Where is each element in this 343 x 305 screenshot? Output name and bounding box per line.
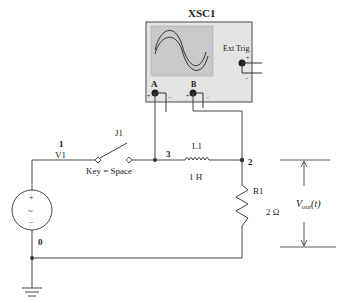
- inductor-value: 1 H: [189, 172, 203, 182]
- resistor-r1[interactable]: R1 2 Ω: [236, 185, 280, 226]
- vout-label: Vout(t): [296, 198, 321, 211]
- node-0-label: 0: [38, 237, 43, 247]
- junction-node-0: [30, 256, 34, 260]
- circuit-schematic: XSC1 Ext Trig + − A B + − + − 1 V1: [0, 0, 343, 305]
- switch-key-label: Key = Space: [86, 166, 132, 176]
- channel-b-label: B: [191, 80, 197, 89]
- node-3-label: 3: [166, 149, 171, 159]
- ground-icon: [22, 288, 42, 296]
- oscilloscope-name: XSC1: [188, 7, 216, 19]
- channel-a-label: A: [151, 79, 158, 89]
- resistor-value: 2 Ω: [266, 207, 280, 217]
- switch-name: J1: [115, 128, 123, 138]
- inductor-l1[interactable]: L1 1 H: [185, 141, 211, 182]
- oscilloscope-xsc1[interactable]: XSC1 Ext Trig + − A B + − + −: [146, 7, 262, 112]
- sine-icon: ~: [28, 206, 33, 216]
- source-name: V1: [55, 150, 66, 160]
- node-2-label: 2: [248, 157, 253, 167]
- node-1-label: 1: [59, 139, 64, 149]
- inductor-name: L1: [192, 141, 202, 151]
- switch-j1[interactable]: J1 Key = Space: [86, 128, 132, 176]
- ext-trig-label: Ext Trig: [223, 44, 249, 53]
- ac-voltage-source[interactable]: + ~ −: [12, 190, 52, 230]
- junction-node-3: [153, 158, 157, 162]
- source-plus: +: [29, 193, 34, 202]
- source-minus: −: [29, 218, 34, 227]
- resistor-name: R1: [253, 186, 264, 196]
- wires: [32, 93, 242, 288]
- junction-node-2: [240, 158, 244, 162]
